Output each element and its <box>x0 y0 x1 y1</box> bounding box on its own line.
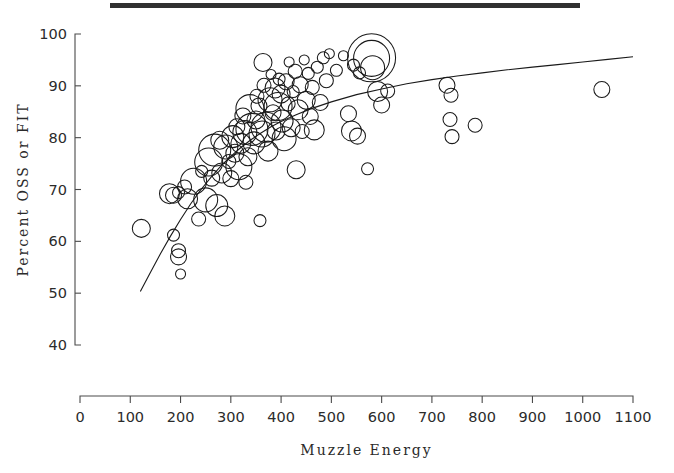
figure-canvas: 405060708090100Percent OSS or FIT0100200… <box>0 0 674 473</box>
x-axis-tick-label: 400 <box>267 409 295 425</box>
data-point-bubble <box>468 118 482 132</box>
data-point-bubble <box>348 34 396 82</box>
x-axis-tick-label: 1000 <box>564 409 601 425</box>
data-point-bubble <box>176 269 186 279</box>
data-point-bubble <box>362 163 374 175</box>
x-axis-title: Muzzle Energy <box>300 442 432 458</box>
data-point-bubble <box>330 64 342 76</box>
data-point-bubble <box>254 54 272 72</box>
data-point-bubble <box>445 130 459 144</box>
data-point-bubble <box>132 219 150 237</box>
data-point-bubble <box>254 215 266 227</box>
x-axis-tick-label: 800 <box>468 409 496 425</box>
x-axis-tick-label: 300 <box>217 409 245 425</box>
data-point-bubble <box>284 57 294 67</box>
data-point-bubble <box>287 161 305 179</box>
x-axis-tick-label: 500 <box>318 409 346 425</box>
data-point-bubble <box>340 106 356 122</box>
x-axis-tick-label: 200 <box>167 409 195 425</box>
x-axis-tick-label: 100 <box>116 409 144 425</box>
data-point-bubble <box>439 77 455 93</box>
y-axis-tick-label: 50 <box>49 285 67 301</box>
x-axis-tick-label: 600 <box>368 409 396 425</box>
x-axis-tick-label: 0 <box>75 409 84 425</box>
data-point-bubble <box>594 81 610 97</box>
data-point-bubble <box>215 206 235 226</box>
y-axis-title: Percent OSS or FIT <box>15 102 31 276</box>
y-axis-tick-label: 70 <box>49 182 67 198</box>
y-axis-tick-label: 40 <box>49 337 67 353</box>
x-axis-spine <box>80 396 633 403</box>
x-axis-tick-label: 700 <box>418 409 446 425</box>
data-point-bubble <box>223 171 239 187</box>
data-point-bubble <box>192 212 206 226</box>
x-axis-tick-label: 1100 <box>615 409 652 425</box>
data-point-bubble <box>171 249 187 265</box>
data-point-bubble <box>311 61 323 73</box>
data-point-bubble <box>338 51 348 61</box>
data-point-bubble <box>299 55 309 65</box>
data-point-bubble <box>354 67 366 79</box>
data-point-bubble <box>374 97 390 113</box>
y-axis-tick-label: 90 <box>49 78 67 94</box>
scatter-plot: 405060708090100Percent OSS or FIT0100200… <box>0 0 674 473</box>
data-point-bubble <box>350 128 366 144</box>
data-point-bubble <box>319 74 333 88</box>
data-point-bubble <box>258 88 282 112</box>
y-axis-tick-label: 80 <box>49 130 67 146</box>
data-point-bubble <box>444 88 458 102</box>
y-axis-tick-label: 100 <box>39 26 67 42</box>
x-axis-tick-label: 900 <box>519 409 547 425</box>
y-axis-tick-label: 60 <box>49 233 67 249</box>
fitted-curve-line <box>140 57 633 292</box>
data-point-bubble <box>443 113 457 127</box>
data-point-bubble <box>302 67 314 79</box>
data-point-bubble <box>288 64 302 78</box>
data-point-bubble <box>287 86 299 98</box>
